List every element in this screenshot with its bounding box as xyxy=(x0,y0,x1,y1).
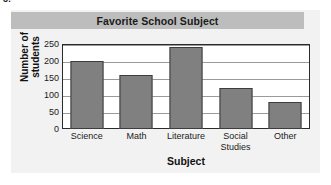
x-tick-label: Literature xyxy=(167,131,205,142)
x-tick-label: Science xyxy=(71,131,103,142)
chart-title-bar: Favorite School Subject xyxy=(11,12,304,29)
y-tick-label: 200 xyxy=(44,56,59,66)
bar[interactable] xyxy=(120,75,153,129)
y-axis-tick-labels: 050100150200250 xyxy=(30,38,59,135)
chart-title: Favorite School Subject xyxy=(97,15,219,27)
bar-slot xyxy=(62,44,112,129)
x-tick-label: Other xyxy=(274,131,297,142)
bar[interactable] xyxy=(219,88,252,129)
y-tick-label: 150 xyxy=(44,73,59,83)
bar-slot xyxy=(161,44,211,129)
x-axis-label: Subject xyxy=(62,155,310,167)
bar[interactable] xyxy=(70,61,103,129)
bar[interactable] xyxy=(269,102,302,129)
bar-slot xyxy=(112,44,162,129)
bar-slot xyxy=(260,44,310,129)
bar-slot xyxy=(211,44,261,129)
y-tick-label: 100 xyxy=(44,90,59,100)
x-axis-tick-labels: ScienceMathLiteratureSocial StudiesOther xyxy=(62,131,310,155)
y-tick-label: 50 xyxy=(49,107,59,117)
x-tick-label: Math xyxy=(126,131,146,142)
bar[interactable] xyxy=(169,47,202,129)
y-tick-label: 250 xyxy=(44,39,59,49)
x-tick-label: Social Studies xyxy=(221,131,251,152)
y-tick-label: 0 xyxy=(54,124,59,134)
exercise-number: 3. xyxy=(3,0,11,4)
bars-group xyxy=(62,44,310,129)
